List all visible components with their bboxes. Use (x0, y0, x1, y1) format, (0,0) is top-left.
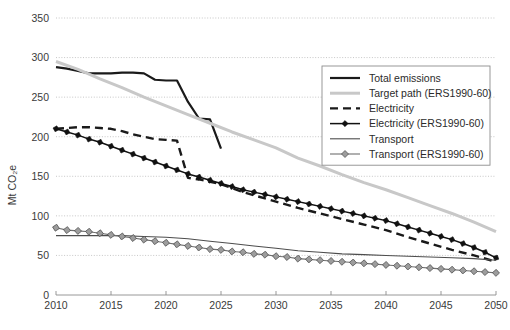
legend-label[interactable]: Electricity (ERS1990-60) (369, 117, 484, 129)
legend-label[interactable]: Electricity (369, 102, 415, 114)
y-tick-label: 200 (31, 131, 49, 143)
line-chart: 050100150200250300350 201020152020202520… (0, 0, 510, 330)
y-tick-label: 150 (31, 170, 49, 182)
series-transport-ers1990-60 (56, 228, 496, 273)
y-axis-tick-labels: 050100150200250300350 (31, 12, 49, 301)
y-axis-title: Mt CO₂e (6, 165, 18, 205)
x-tick-label: 2015 (99, 299, 123, 311)
x-tick-label: 2020 (154, 299, 178, 311)
chart-legend: Total emissionsTarget path (ERS1990-60)E… (322, 66, 492, 165)
x-tick-label: 2050 (484, 299, 508, 311)
x-axis (56, 291, 496, 295)
y-tick-label: 300 (31, 51, 49, 63)
x-tick-label: 2045 (429, 299, 453, 311)
x-tick-label: 2025 (209, 299, 233, 311)
legend-label[interactable]: Transport (ERS1990-60) (369, 148, 484, 160)
legend-label[interactable]: Target path (ERS1990-60) (369, 87, 492, 99)
y-tick-label: 250 (31, 91, 49, 103)
x-tick-label: 2010 (44, 299, 68, 311)
chart-container: 050100150200250300350 201020152020202520… (0, 0, 510, 330)
y-tick-label: 350 (31, 12, 49, 24)
x-tick-label: 2030 (264, 299, 288, 311)
legend-label[interactable]: Total emissions (369, 72, 441, 84)
x-tick-label: 2040 (374, 299, 398, 311)
x-tick-label: 2035 (319, 299, 343, 311)
x-axis-tick-labels: 201020152020202520302035204020452050 (44, 299, 508, 311)
y-tick-label: 100 (31, 210, 49, 222)
legend-label[interactable]: Transport (369, 133, 414, 145)
y-tick-label: 50 (37, 249, 49, 261)
